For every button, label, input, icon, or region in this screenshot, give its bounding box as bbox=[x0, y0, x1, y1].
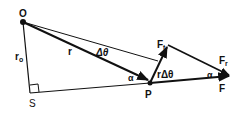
line-s-to-p bbox=[30, 83, 150, 93]
label-fr: Fr bbox=[219, 55, 228, 67]
line-o-to-ft bbox=[23, 22, 158, 61]
label-r-delta-theta: rΔθ bbox=[157, 69, 173, 80]
point-p bbox=[148, 81, 153, 86]
line-r-o-to-p bbox=[23, 22, 148, 80]
force-geometry-diagram: O S P r ro Δθ α α rΔθ Ft Fr F bbox=[0, 0, 242, 113]
label-r0: ro bbox=[15, 51, 23, 63]
label-delta-theta: Δθ bbox=[95, 47, 109, 58]
label-r: r bbox=[68, 46, 72, 57]
diagram-canvas: O S P r ro Δθ α α rΔθ Ft Fr F bbox=[0, 0, 242, 113]
label-ft: Ft bbox=[157, 39, 166, 51]
point-o bbox=[20, 19, 26, 25]
line-o-to-s bbox=[23, 22, 30, 93]
right-angle-marker bbox=[30, 84, 39, 92]
label-o: O bbox=[19, 8, 27, 19]
label-p: P bbox=[145, 89, 152, 100]
label-f: F bbox=[219, 83, 225, 94]
label-alpha-left: α bbox=[128, 73, 134, 83]
label-alpha-right: α bbox=[207, 70, 213, 80]
label-s: S bbox=[29, 98, 36, 109]
